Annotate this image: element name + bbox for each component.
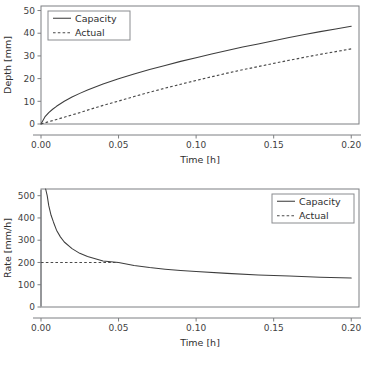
legend-label-actual: Actual xyxy=(75,27,105,38)
y-tick-label: 40 xyxy=(24,28,36,38)
x-axis-label: Time [h] xyxy=(179,337,220,348)
y-tick-label: 30 xyxy=(24,51,36,61)
y-tick-label: 20 xyxy=(24,74,36,84)
y-tick-label: 500 xyxy=(18,191,35,201)
y-tick-label: 200 xyxy=(18,258,35,268)
y-tick-label: 400 xyxy=(18,213,35,223)
chart-depth-canvas: 010203040500.000.050.100.150.20Time [h]D… xyxy=(0,0,369,183)
y-tick-label: 0 xyxy=(29,302,35,312)
x-tick-label: 0.05 xyxy=(109,140,129,150)
x-tick-label: 0.20 xyxy=(341,323,361,333)
legend-label-capacity: Capacity xyxy=(299,196,341,207)
y-tick-label: 100 xyxy=(18,280,35,290)
y-tick-label: 300 xyxy=(18,235,35,245)
x-tick-label: 0.00 xyxy=(31,323,51,333)
x-tick-label: 0.05 xyxy=(109,323,129,333)
y-axis-label: Rate [mm/h] xyxy=(2,218,13,278)
series-capacity xyxy=(41,26,351,124)
x-tick-label: 0.20 xyxy=(341,140,361,150)
x-tick-label: 0.15 xyxy=(264,323,284,333)
chart-rate-canvas: 01002003004005000.000.050.100.150.20Time… xyxy=(0,183,369,366)
x-tick-label: 0.10 xyxy=(186,323,206,333)
x-tick-label: 0.00 xyxy=(31,140,51,150)
y-tick-label: 50 xyxy=(24,6,36,16)
chart-depth-vs-time: 010203040500.000.050.100.150.20Time [h]D… xyxy=(0,0,369,183)
series-actual xyxy=(41,49,351,124)
chart-rate-vs-time: 01002003004005000.000.050.100.150.20Time… xyxy=(0,183,369,366)
y-axis-label: Depth [mm] xyxy=(2,36,13,94)
x-tick-label: 0.15 xyxy=(264,140,284,150)
x-tick-label: 0.10 xyxy=(186,140,206,150)
x-axis-label: Time [h] xyxy=(179,154,220,165)
y-tick-label: 10 xyxy=(24,97,36,107)
legend-label-actual: Actual xyxy=(299,210,329,221)
y-tick-label: 0 xyxy=(29,119,35,129)
legend-label-capacity: Capacity xyxy=(75,13,117,24)
